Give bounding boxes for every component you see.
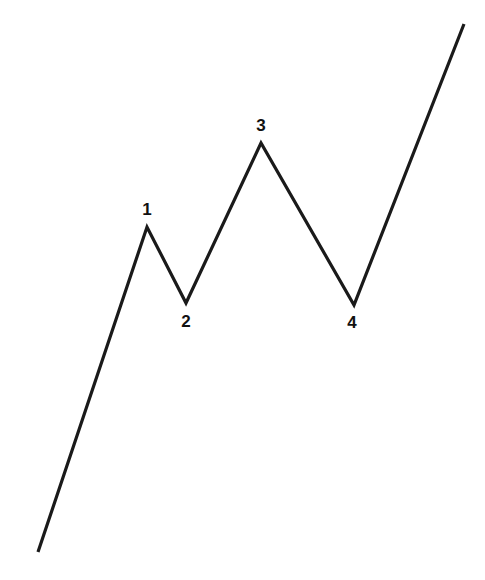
chart-background [0, 0, 485, 580]
data-point-label-3: 3 [256, 117, 265, 134]
data-point-label-2: 2 [181, 313, 190, 330]
data-point-label-1: 1 [142, 201, 151, 218]
data-point-label-4: 4 [347, 314, 356, 331]
zigzag-wave-chart [0, 0, 485, 580]
